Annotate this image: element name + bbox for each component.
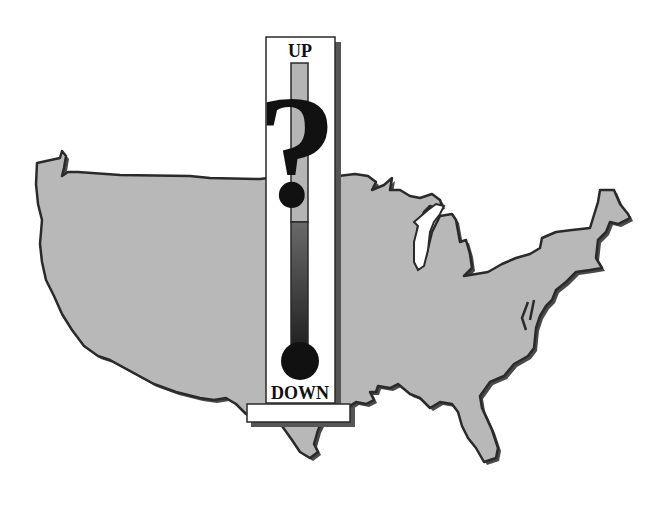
thermometer-tube-lower [291,222,308,352]
thermometer-base [247,404,350,422]
label-down: DOWN [271,383,329,403]
question-mark-symbol: ? [257,63,337,241]
label-up: UP [288,41,312,61]
illustration: ? UP DOWN [0,0,668,516]
thermometer-bulb [281,342,319,380]
